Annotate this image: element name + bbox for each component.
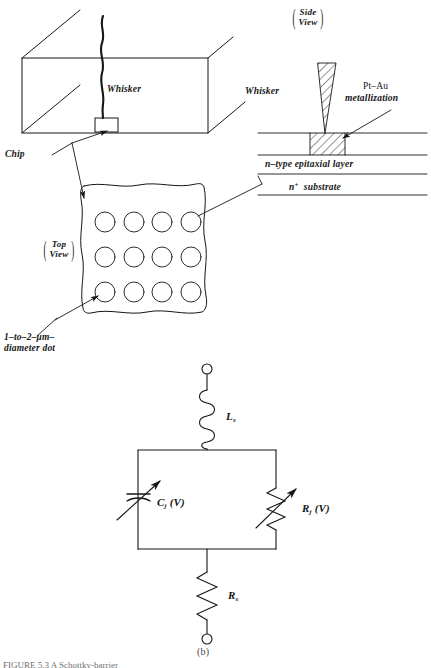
pt-au-metallization-block — [310, 133, 345, 155]
whisker-tip-cone — [318, 63, 336, 133]
dot-r2c2 — [124, 247, 144, 267]
dot-r3c1 — [95, 282, 115, 302]
capacitor-label-base: C — [157, 496, 165, 508]
panel-label: (b) — [197, 646, 209, 657]
dot-r1c1 — [95, 212, 115, 232]
top-view-tag: Top View — [34, 239, 84, 259]
junction-resistor-label: Rj (V) — [302, 503, 330, 518]
side-view-tag: Side View — [282, 7, 334, 27]
figure-caption-truncated: FIGURE 5.3 A Schottky-barrier — [3, 660, 118, 668]
chip-leader-lines — [52, 131, 107, 198]
whisker-label-side-view: Whisker — [245, 86, 279, 97]
dot-r2c1 — [95, 247, 115, 267]
side-view-group — [258, 63, 427, 195]
chip-dot-pedestal — [95, 118, 118, 132]
side-view-tag-line2: View — [299, 17, 318, 27]
junction-resistor-label-arg: (V) — [315, 502, 330, 514]
inductor-label: Ls — [226, 411, 236, 426]
dot-r3c3 — [152, 282, 172, 302]
dot-label-leader-arrow — [55, 296, 98, 320]
equivalent-circuit-group — [117, 364, 296, 644]
dot-diameter-label-line2: diameter dot — [4, 343, 55, 353]
dot-grid — [95, 212, 201, 302]
dot-r3c2 — [124, 282, 144, 302]
substrate-label-suffix: substrate — [304, 182, 341, 192]
dot-to-sideview-leader — [198, 184, 262, 216]
terminal-bottom-node — [202, 634, 212, 644]
top-view-tag-line1: Top — [52, 239, 66, 249]
junction-resistor-label-sub: j — [310, 508, 312, 516]
whisker-label-perspective: Whisker — [107, 84, 141, 95]
top-view-tag-line2: View — [50, 249, 69, 259]
inductor-label-base: L — [226, 410, 233, 422]
epitaxial-layer-label: n–type epitaxial layer — [265, 159, 353, 170]
chip-edge-bottom-right — [208, 102, 245, 133]
side-view-tag-line1: Side — [300, 7, 317, 17]
series-resistor-Rs-zigzag — [197, 572, 217, 620]
terminal-top-node — [202, 364, 212, 374]
dot-diameter-label-line1: 1–to–2–μm– — [4, 332, 55, 342]
junction-resistor-label-base: R — [302, 502, 310, 514]
chip-edge-bottom-left — [22, 85, 80, 133]
chip-edge-top-right — [208, 37, 233, 58]
series-resistor-label: Rs — [228, 590, 238, 605]
chip-label: Chip — [5, 149, 25, 160]
capacitor-label-arg: (V) — [170, 496, 185, 508]
series-resistor-label-base: R — [228, 589, 236, 601]
dot-r1c2 — [124, 212, 144, 232]
dot-diameter-label: 1–to–2–μm– diameter dot — [4, 332, 100, 354]
chip-leader-stem — [52, 143, 72, 155]
chip-leader-to-topview — [72, 143, 84, 198]
dot-r2c3 — [152, 247, 172, 267]
whisker-wire-perspective — [101, 16, 104, 118]
capacitor-label: Cj (V) — [157, 497, 185, 512]
dot-to-sideview-leader-tail — [258, 176, 262, 184]
pt-au-label-line1: Pt–Au — [363, 81, 388, 92]
chip-edge-top-left — [22, 10, 80, 58]
series-resistor-label-sub: s — [236, 595, 239, 603]
metallization-label-line2: metallization — [345, 93, 398, 104]
substrate-label-sup: + — [294, 181, 298, 189]
perspective-chip-view — [22, 10, 245, 133]
inductor-Ls-coil — [200, 390, 215, 449]
capacitor-label-sub: j — [165, 502, 167, 510]
dot-r1c3 — [152, 212, 172, 232]
dot-r1c4 — [181, 212, 201, 232]
junction-resistor-variability-arrow — [256, 489, 296, 528]
substrate-label: n+ substrate — [289, 180, 341, 193]
metallization-leader-arrow — [343, 110, 391, 138]
dot-r3c4 — [181, 282, 201, 302]
dot-r2c4 — [181, 247, 201, 267]
inductor-label-sub: s — [233, 416, 236, 424]
